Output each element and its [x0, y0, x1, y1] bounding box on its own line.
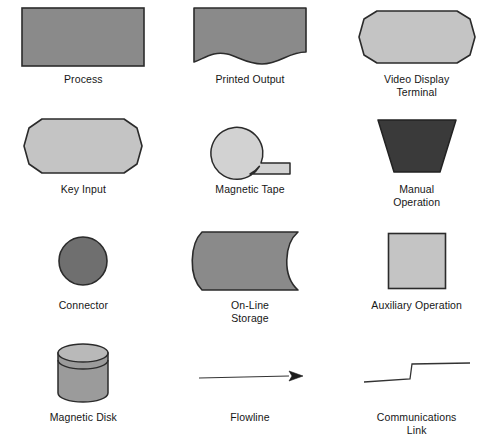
symbol-grid: Process Printed Output Video Display Ter… — [0, 0, 500, 436]
communications-link-symbol — [333, 334, 500, 404]
symbol-label-auxiliary-operation: Auxiliary Operation — [371, 299, 462, 312]
symbol-label-connector: Connector — [59, 299, 108, 312]
symbol-label-communications-link: Communications Link — [377, 411, 457, 436]
symbol-label-video-display-terminal: Video Display Terminal — [384, 73, 449, 98]
symbol-label-manual-operation: Manual Operation — [393, 183, 440, 208]
symbol-label-key-input: Key Input — [61, 183, 106, 196]
magnetic-disk-symbol — [0, 334, 167, 404]
connector-symbol — [0, 222, 167, 294]
process-symbol — [0, 0, 167, 68]
symbol-cell-video-display-terminal: Video Display Terminal — [333, 0, 500, 110]
symbol-label-magnetic-disk: Magnetic Disk — [50, 411, 117, 424]
symbol-cell-magnetic-tape: Magnetic Tape — [167, 110, 334, 222]
video-display-terminal-symbol — [333, 0, 500, 68]
symbol-label-process: Process — [64, 73, 103, 86]
symbol-cell-magnetic-disk: Magnetic Disk — [0, 334, 167, 436]
manual-operation-symbol — [333, 110, 500, 178]
symbol-cell-manual-operation: Manual Operation — [333, 110, 500, 222]
symbol-label-flowline: Flowline — [230, 411, 269, 424]
key-input-symbol — [0, 110, 167, 178]
symbol-cell-printed-output: Printed Output — [167, 0, 334, 110]
magnetic-tape-symbol — [167, 110, 334, 178]
symbol-cell-process: Process — [0, 0, 167, 110]
flowchart-symbols-diagram: Process Printed Output Video Display Ter… — [0, 0, 500, 436]
symbol-label-on-line-storage: On-Line Storage — [231, 299, 269, 324]
symbol-cell-communications-link: Communications Link — [333, 334, 500, 436]
symbol-cell-auxiliary-operation: Auxiliary Operation — [333, 222, 500, 334]
symbol-cell-connector: Connector — [0, 222, 167, 334]
flowline-symbol — [167, 334, 334, 404]
symbol-label-magnetic-tape: Magnetic Tape — [215, 183, 284, 196]
symbol-cell-flowline: Flowline — [167, 334, 334, 436]
printed-output-symbol — [167, 0, 334, 68]
symbol-cell-on-line-storage: On-Line Storage — [167, 222, 334, 334]
on-line-storage-symbol — [167, 222, 334, 294]
auxiliary-operation-symbol — [333, 222, 500, 294]
symbol-label-printed-output: Printed Output — [215, 73, 284, 86]
symbol-cell-key-input: Key Input — [0, 110, 167, 222]
